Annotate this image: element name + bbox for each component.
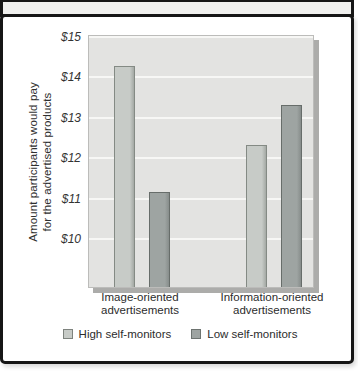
bar-high-image: [114, 66, 135, 287]
ytick-label-15: $15: [39, 30, 81, 44]
bar-high-info: [246, 145, 267, 287]
previous-figure-edge: [0, 0, 354, 17]
ytick-label-12: $12: [39, 151, 81, 165]
ytick-label-13: $13: [39, 111, 81, 125]
y-axis-title-line1: Amount participants would pay: [27, 82, 39, 242]
ytick-label-10: $10: [39, 232, 81, 246]
category-label-image-oriented: Image-oriented advertisements: [65, 291, 215, 317]
category-label-information-oriented: Information-oriented advertisements: [197, 291, 347, 317]
page: Amount participants would pay for the ad…: [0, 0, 358, 377]
gridline-15: [89, 36, 313, 38]
legend: High self-monitors Low self-monitors: [60, 328, 300, 340]
legend-item-low-self-monitors: Low self-monitors: [191, 328, 297, 340]
ytick-label-14: $14: [39, 70, 81, 84]
legend-item-high-self-monitors: High self-monitors: [63, 328, 172, 340]
legend-label-high: High self-monitors: [79, 328, 172, 340]
legend-swatch-low-icon: [191, 329, 201, 339]
figure-box: Amount participants would pay for the ad…: [0, 14, 354, 364]
ytick-label-11: $11: [39, 192, 81, 206]
legend-swatch-high-icon: [63, 329, 73, 339]
plot-area: $15$14$13$12$11$10: [88, 35, 314, 288]
bar-low-image: [149, 192, 170, 287]
legend-label-low: Low self-monitors: [207, 328, 297, 340]
bar-low-info: [281, 105, 302, 287]
